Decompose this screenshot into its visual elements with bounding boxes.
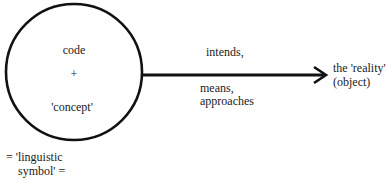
caption-symbol: symbol' = — [18, 165, 65, 178]
arrow-label-approaches: approaches — [200, 95, 254, 108]
target-label-object: (object) — [333, 76, 370, 89]
arrow-label-intends: intends, — [206, 46, 244, 59]
target-label-reality: the 'reality' — [333, 62, 386, 75]
circle-text-concept: 'concept' — [51, 101, 93, 114]
circle-text-code: code — [63, 44, 86, 57]
caption-linguistic: = 'linguistic — [6, 151, 63, 164]
circle-text-plus: + — [71, 68, 78, 81]
